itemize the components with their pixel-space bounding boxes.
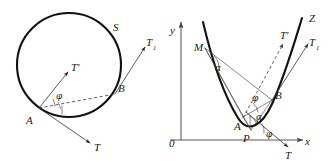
angle-phi-arc xyxy=(58,102,61,109)
vector-t-prime-dashed xyxy=(243,44,283,118)
label-point-b: B xyxy=(118,82,125,94)
label-point-a-right: A xyxy=(233,120,241,132)
label-curve-s: S xyxy=(113,21,119,33)
circle-curve-s xyxy=(17,13,121,117)
label-vector-t1-subscript-right: 1 xyxy=(316,44,319,51)
geometry-figure: S A B T' T T 1 φ xyxy=(0,0,333,168)
label-point-a: A xyxy=(25,114,33,126)
label-vector-t1-right: T xyxy=(309,36,316,48)
label-x-axis: x xyxy=(304,135,310,147)
label-angle-phi-lower: φ xyxy=(266,129,273,139)
label-point-b-right: B xyxy=(275,89,282,101)
angle-phi-arc-inner xyxy=(53,99,55,106)
label-angle-alpha-lower: α xyxy=(256,112,262,122)
left-panel: S A B T' T T 1 φ xyxy=(17,13,156,153)
label-vector-t-prime-right: T' xyxy=(280,29,289,41)
label-origin: 0 xyxy=(169,137,175,149)
label-point-p: P xyxy=(242,132,250,144)
label-y-axis: y xyxy=(169,24,175,36)
vector-t-prime-arrow xyxy=(39,72,68,108)
chord-ab-dashed xyxy=(39,94,115,108)
right-panel: Z M A B P T' T T 1 α φ α φ y x 0 xyxy=(169,12,319,161)
label-angle-phi: φ xyxy=(56,91,63,101)
chord-mp xyxy=(205,48,251,130)
label-angle-phi-upper: φ xyxy=(252,93,259,103)
figure-root: S A B T' T T 1 φ xyxy=(0,0,333,168)
label-curve-z: Z xyxy=(309,12,316,24)
label-vector-t-prime: T' xyxy=(71,61,80,73)
vector-t-arrow xyxy=(39,108,90,143)
label-vector-t1-subscript: 1 xyxy=(153,44,156,51)
label-point-m: M xyxy=(193,41,204,53)
label-vector-t1: T xyxy=(146,36,153,48)
label-vector-t-right: T xyxy=(285,149,292,161)
label-vector-t: T xyxy=(94,141,101,153)
chord-mb xyxy=(205,48,272,100)
label-angle-alpha-upper: α xyxy=(215,63,221,73)
